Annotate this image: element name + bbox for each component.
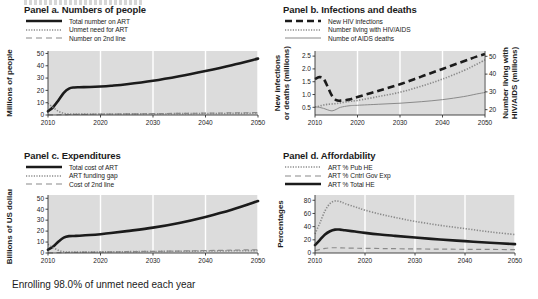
svg-text:2020: 2020: [358, 257, 373, 264]
panel-c-title: Panel c. Expenditures: [24, 150, 269, 161]
svg-text:2050: 2050: [508, 257, 523, 264]
svg-text:Number living with: Number living with: [501, 47, 510, 119]
legend-label: Cost of 2nd line: [69, 181, 114, 188]
panel-b-title: Panel b. Infections and deaths: [283, 4, 538, 15]
legend-label: ART % Pub HE: [328, 164, 373, 171]
panel-c-plot: 0102030405020102020203020402050Billions …: [0, 189, 269, 275]
svg-text:60: 60: [304, 209, 312, 216]
svg-text:2010: 2010: [308, 119, 323, 126]
svg-text:10: 10: [37, 238, 45, 245]
legend-key-solid-thick: [24, 163, 64, 171]
legend-key-dotted: [24, 172, 64, 180]
panel-d-legend: ART % Pub HE ART % Cntrl Gov Exp ART % T…: [283, 163, 538, 189]
legend-key-dashed: [283, 172, 323, 180]
svg-text:20: 20: [304, 236, 312, 243]
legend-item: Number on 2nd line: [24, 34, 269, 43]
svg-text:30: 30: [489, 88, 497, 95]
svg-text:0: 0: [40, 249, 44, 256]
panel-a-numbers-of-people: Panel a. Numbers of people Total number …: [0, 4, 269, 146]
legend-item: ART % Total HE: [283, 180, 538, 189]
legend-key-solid-thin: [283, 34, 323, 42]
panel-b-infections-and-deaths: Panel b. Infections and deaths New HIV i…: [269, 4, 538, 146]
svg-text:New infections: New infections: [273, 54, 282, 111]
svg-text:2050: 2050: [478, 119, 493, 126]
svg-text:2010: 2010: [41, 257, 56, 264]
legend-label: New HIV infections: [328, 18, 383, 25]
svg-text:30: 30: [37, 74, 45, 81]
svg-text:20: 20: [489, 105, 497, 112]
legend-item: ART % Pub HE: [283, 163, 538, 172]
svg-text:Billions of US dollars: Billions of US dollars: [5, 189, 14, 264]
svg-text:2040: 2040: [458, 257, 473, 264]
svg-text:2010: 2010: [41, 119, 56, 126]
svg-text:40: 40: [37, 62, 45, 69]
legend-key-dashed-thick: [283, 17, 323, 25]
legend-label: Unmet need for ART: [69, 26, 128, 33]
panel-a-title: Panel a. Numbers of people: [24, 4, 269, 15]
svg-text:40: 40: [37, 205, 45, 212]
legend-label: Total number on ART: [69, 18, 130, 25]
svg-text:2040: 2040: [435, 119, 450, 126]
svg-text:2010: 2010: [308, 257, 323, 264]
svg-text:Percentages: Percentages: [276, 199, 285, 247]
legend-item: Numbe of AIDS deaths: [283, 34, 538, 43]
svg-text:2030: 2030: [408, 257, 423, 264]
legend-item: New HIV infections: [283, 17, 538, 26]
panel-d-affordability: Panel d. Affordability ART % Pub HE ART …: [269, 150, 538, 278]
legend-label: Number on 2nd line: [69, 35, 126, 42]
panel-c-legend: Total cost of ART ART funding gap Cost o…: [24, 163, 269, 189]
svg-text:2040: 2040: [198, 119, 213, 126]
legend-label: Number living with HIV/AIDS: [328, 26, 411, 33]
legend-key-solid-thick: [24, 17, 64, 25]
panel-b-legend: New HIV infections Number living with HI…: [283, 17, 538, 43]
svg-text:2020: 2020: [93, 257, 108, 264]
svg-text:50: 50: [489, 52, 497, 59]
legend-label: Total cost of ART: [69, 164, 118, 171]
svg-text:50: 50: [37, 49, 45, 56]
panel-a-plot: 0102030405020102020203020402050Millions …: [0, 43, 269, 138]
legend-item: Total cost of ART: [24, 163, 269, 172]
legend-label: ART % Total HE: [328, 181, 375, 188]
legend-key-dotted: [283, 26, 323, 34]
legend-label: ART % Cntrl Gov Exp: [328, 172, 391, 179]
legend-label: ART funding gap: [69, 172, 118, 179]
panel-a-legend: Total number on ART Unmet need for ART N…: [24, 17, 269, 43]
legend-item: Number living with HIV/AIDS: [283, 26, 538, 35]
legend-key-dashed: [24, 180, 64, 188]
legend-item: Unmet need for ART: [24, 26, 269, 35]
svg-text:2.0: 2.0: [302, 65, 311, 72]
legend-label: Numbe of AIDS deaths: [328, 35, 394, 42]
legend-item: Total number on ART: [24, 17, 269, 26]
svg-text:0.5: 0.5: [302, 103, 311, 110]
panel-b-plot: 0.51.01.52.02.52030405020102020203020402…: [269, 43, 538, 138]
svg-text:1.0: 1.0: [302, 90, 311, 97]
svg-text:40: 40: [489, 70, 497, 77]
panel-d-plot: 02040608020102020203020402050Percentages: [269, 189, 538, 275]
legend-key-dotted: [24, 26, 64, 34]
figure-caption: Enrolling 98.0% of unmet need each year: [12, 279, 195, 290]
legend-item: Cost of 2nd line: [24, 180, 269, 189]
svg-text:2020: 2020: [93, 119, 108, 126]
legend-key-dotted: [283, 163, 323, 171]
svg-text:HIV/AIDS (millions): HIV/AIDS (millions): [510, 46, 519, 119]
legend-item: ART funding gap: [24, 172, 269, 181]
legend-key-solid-thick: [283, 180, 323, 188]
svg-text:2040: 2040: [198, 257, 213, 264]
svg-text:2020: 2020: [350, 119, 365, 126]
svg-text:50: 50: [37, 194, 45, 201]
svg-text:10: 10: [37, 98, 45, 105]
panel-d-title: Panel d. Affordability: [283, 150, 538, 161]
svg-text:1.5: 1.5: [302, 78, 311, 85]
svg-text:2050: 2050: [251, 119, 266, 126]
svg-text:20: 20: [37, 86, 45, 93]
svg-text:Millions of people: Millions of people: [5, 48, 14, 116]
svg-text:30: 30: [37, 216, 45, 223]
svg-text:2030: 2030: [393, 119, 408, 126]
legend-item: ART % Cntrl Gov Exp: [283, 172, 538, 181]
svg-text:2030: 2030: [146, 119, 161, 126]
svg-text:40: 40: [304, 222, 312, 229]
svg-text:0: 0: [307, 249, 311, 256]
svg-text:80: 80: [304, 196, 312, 203]
legend-key-dashed: [24, 34, 64, 42]
svg-text:2050: 2050: [251, 257, 266, 264]
